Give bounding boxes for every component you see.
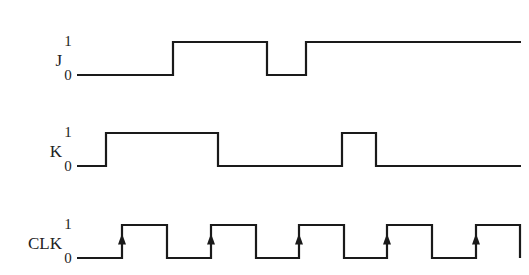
signal-j: J10 [55, 33, 521, 83]
level-high-label: 1 [64, 33, 72, 49]
timing-diagram: J10K10CLK10 [0, 0, 529, 275]
rising-edge-arrow-icon [207, 234, 215, 245]
level-high-label: 1 [64, 216, 72, 232]
waveform-line [77, 42, 521, 75]
signal-name-label: K [50, 142, 63, 161]
rising-edge-arrow-icon [295, 234, 303, 245]
level-low-label: 0 [64, 158, 72, 174]
timing-diagram-canvas: J10K10CLK10 [0, 0, 529, 275]
signal-name-label: CLK [28, 234, 63, 253]
signal-name-label: J [55, 51, 62, 70]
level-low-label: 0 [64, 67, 72, 83]
signal-clk: CLK10 [28, 216, 520, 266]
level-high-label: 1 [64, 124, 72, 140]
rising-edge-arrow-icon [118, 234, 126, 245]
waveform-line [77, 133, 521, 166]
signal-k: K10 [50, 124, 521, 174]
rising-edge-arrow-icon [472, 234, 480, 245]
rising-edge-arrow-icon [383, 234, 391, 245]
level-low-label: 0 [64, 250, 72, 266]
